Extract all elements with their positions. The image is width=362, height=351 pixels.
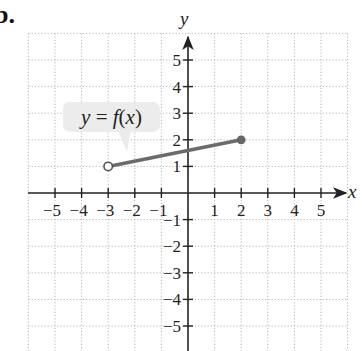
- y-tick-label: 3: [173, 104, 182, 123]
- y-tick-label: 2: [173, 131, 182, 150]
- x-tick-labels: −5 −4 −3 −2 −1 1 2 3 4 5: [43, 201, 325, 220]
- y-tick-label: −4: [163, 290, 182, 309]
- x-tick-label: −3: [96, 201, 114, 220]
- y-tick-label: −3: [163, 264, 181, 283]
- y-tick-label: −1: [163, 211, 181, 230]
- x-tick-label: −5: [43, 201, 61, 220]
- y-tick-label: 4: [173, 78, 182, 97]
- x-axis-label: x: [347, 181, 357, 202]
- function-callout: y = f(x): [63, 102, 160, 152]
- y-tick-label: −2: [163, 237, 181, 256]
- closed-endpoint: [237, 135, 246, 144]
- x-tick-label: −4: [70, 201, 89, 220]
- open-endpoint: [104, 162, 112, 170]
- y-tick-label: 5: [173, 51, 182, 70]
- x-tick-label: −2: [123, 201, 141, 220]
- y-axis-label: y: [178, 8, 189, 29]
- coordinate-plane: b.: [0, 0, 362, 351]
- x-tick-label: 4: [290, 201, 299, 220]
- x-tick-label: 3: [264, 201, 273, 220]
- y-tick-label: −5: [163, 317, 181, 336]
- part-label: b.: [0, 0, 15, 29]
- x-tick-label: 2: [237, 201, 246, 220]
- function-label: y = f(x): [79, 105, 142, 129]
- x-tick-label: 1: [210, 201, 219, 220]
- x-tick-label: 5: [317, 201, 326, 220]
- y-tick-label: 1: [173, 157, 182, 176]
